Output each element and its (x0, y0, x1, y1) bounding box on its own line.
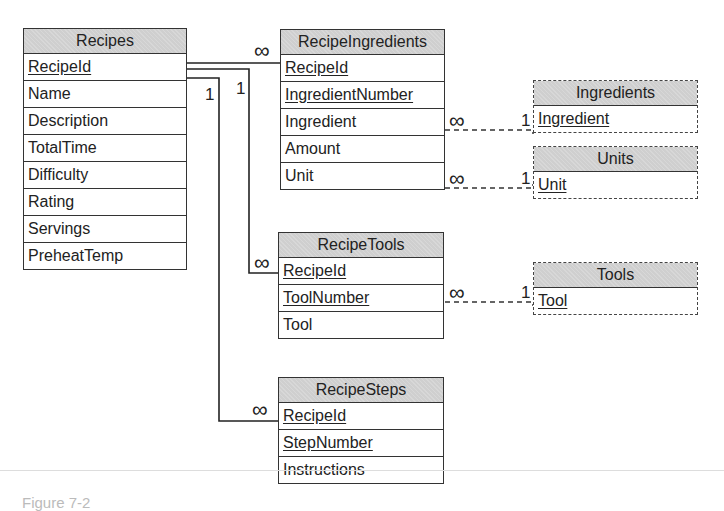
card-many-recipetools: ∞ (254, 252, 270, 274)
table-header: Ingredients (534, 81, 697, 106)
table-header: Units (534, 147, 697, 172)
field-description: Description (24, 108, 186, 135)
field-recipeid: RecipeId (24, 54, 186, 81)
divider (0, 470, 724, 471)
card-one-recipesteps: 1 (236, 80, 245, 97)
field-totaltime: TotalTime (24, 135, 186, 162)
field-stepnumber: StepNumber (279, 430, 443, 457)
card-many-ingredient: ∞ (449, 110, 465, 132)
field-name: Name (24, 81, 186, 108)
field-preheattemp: PreheatTemp (24, 243, 186, 269)
line-recipes-recipetools (186, 69, 283, 273)
table-recipeingredients[interactable]: RecipeIngredients RecipeId IngredientNum… (280, 29, 445, 190)
card-one-units: 1 (521, 170, 530, 187)
card-many-unit: ∞ (449, 168, 465, 190)
field-amount: Amount (281, 136, 444, 163)
card-many-toolnumber: ∞ (449, 282, 465, 304)
field-recipeid: RecipeId (281, 55, 444, 82)
field-unit: Unit (281, 163, 444, 189)
field-ingredientnumber: IngredientNumber (281, 82, 444, 109)
field-servings: Servings (24, 216, 186, 243)
card-one-recipetools: 1 (205, 86, 214, 103)
card-many-recipesteps: ∞ (252, 399, 268, 421)
field-rating: Rating (24, 189, 186, 216)
table-recipes[interactable]: Recipes RecipeId Name Description TotalT… (23, 28, 187, 270)
table-units[interactable]: Units Unit (533, 146, 698, 199)
table-header: RecipeTools (279, 233, 443, 258)
field-ingredient: Ingredient (534, 106, 697, 132)
table-recipetools[interactable]: RecipeTools RecipeId ToolNumber Tool (278, 232, 444, 339)
table-header: Tools (534, 263, 697, 288)
field-ingredient: Ingredient (281, 109, 444, 136)
field-recipeid: RecipeId (279, 403, 443, 430)
field-unit: Unit (534, 172, 697, 198)
field-recipeid: RecipeId (279, 258, 443, 285)
table-recipesteps[interactable]: RecipeSteps RecipeId StepNumber Instruct… (278, 377, 444, 484)
figure-caption: Figure 7-2 (22, 494, 90, 511)
table-tools[interactable]: Tools Tool (533, 262, 698, 315)
card-one-tools: 1 (521, 284, 530, 301)
table-header: Recipes (24, 29, 186, 54)
field-toolnumber: ToolNumber (279, 285, 443, 312)
table-header: RecipeIngredients (281, 30, 444, 55)
field-tool: Tool (534, 288, 697, 314)
table-ingredients[interactable]: Ingredients Ingredient (533, 80, 698, 133)
table-header: RecipeSteps (279, 378, 443, 403)
field-difficulty: Difficulty (24, 162, 186, 189)
field-tool: Tool (279, 312, 443, 338)
card-many-recipeingredients: ∞ (254, 40, 270, 62)
card-one-ingredients: 1 (521, 112, 530, 129)
